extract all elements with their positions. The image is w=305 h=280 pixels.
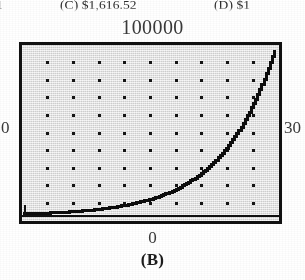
- x-axis-min-label: 0: [0, 228, 305, 248]
- chart-plot: [19, 42, 282, 224]
- panel-label: (B): [0, 250, 305, 270]
- y-axis-stub: [24, 205, 26, 217]
- text-crop-fade: [0, 7, 305, 14]
- exponential-curve: [22, 45, 279, 221]
- x-axis-max-label: 30: [284, 118, 301, 138]
- plot-screen: [22, 45, 279, 221]
- curve-path: [23, 50, 274, 213]
- x-axis-baseline: [22, 215, 279, 217]
- y-axis-min-label: 0: [1, 118, 10, 138]
- y-axis-max-label: 100000: [0, 16, 305, 39]
